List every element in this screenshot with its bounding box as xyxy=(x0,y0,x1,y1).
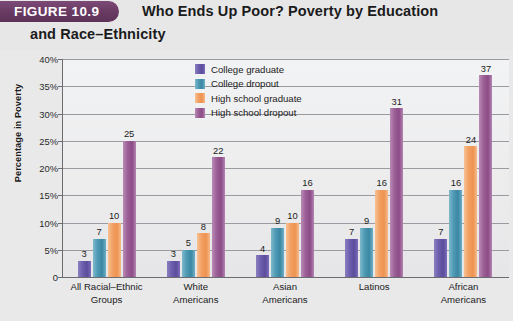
bar[interactable] xyxy=(167,261,180,277)
legend-swatch-icon xyxy=(195,79,205,89)
figure-title: Who Ends Up Poor? Poverty by Education a… xyxy=(30,0,500,46)
bar[interactable] xyxy=(271,228,284,277)
chart-area: Percentage in Poverty 40%35%30%25%20%15%… xyxy=(0,50,513,321)
bar[interactable] xyxy=(479,75,492,277)
bar-value-label: 37 xyxy=(481,63,491,74)
legend-label: College graduate xyxy=(211,64,284,75)
bar[interactable] xyxy=(345,239,358,277)
bar-value-label: 10 xyxy=(109,210,119,221)
figure-header: FIGURE 10.9 Who Ends Up Poor? Poverty by… xyxy=(0,0,513,50)
y-axis-tick-label: 10% xyxy=(18,217,58,228)
x-axis-tick-label-line: White xyxy=(151,281,240,294)
bar-value-label: 22 xyxy=(213,145,223,156)
bar[interactable] xyxy=(212,157,225,277)
x-axis-tick-label: AsianAmericans xyxy=(240,281,329,306)
bar-value-label: 4 xyxy=(260,243,265,254)
bar-group: 371025 xyxy=(62,59,151,277)
bar-value-label: 10 xyxy=(287,210,297,221)
bar[interactable] xyxy=(301,190,314,277)
bar[interactable] xyxy=(390,108,403,277)
legend-swatch-icon xyxy=(195,64,205,74)
x-axis-tick-label-line: Latinos xyxy=(330,281,419,294)
bar-value-label: 24 xyxy=(466,134,476,145)
x-axis-tick-label-line: All Racial–Ethnic xyxy=(62,281,151,294)
y-axis-tick xyxy=(58,277,63,278)
bar[interactable] xyxy=(464,146,477,277)
x-axis-tick-label-line: Groups xyxy=(62,294,151,307)
bar[interactable] xyxy=(375,190,388,277)
bar-value-label: 5 xyxy=(186,237,191,248)
bar-value-label: 8 xyxy=(201,221,206,232)
x-axis-tick-label-line: Americans xyxy=(151,294,240,307)
bar-value-label: 3 xyxy=(81,248,86,259)
x-axis-tick-label-line: Americans xyxy=(240,294,329,307)
bar[interactable] xyxy=(123,141,136,277)
y-axis-tick-label: 15% xyxy=(18,190,58,201)
bar[interactable] xyxy=(286,223,299,278)
y-axis-tick-label: 20% xyxy=(18,163,58,174)
bar-value-label: 16 xyxy=(376,177,386,188)
figure-title-line-2: and Race–Ethnicity xyxy=(30,23,500,46)
y-axis-tick-label: 40% xyxy=(18,54,58,65)
legend-item[interactable]: College dropout xyxy=(195,77,302,92)
x-axis-tick-label: AfricanAmericans xyxy=(419,281,508,306)
x-axis-tick-label-line: African xyxy=(419,281,508,294)
y-axis-tick-label: 5% xyxy=(18,244,58,255)
bar-value-label: 9 xyxy=(275,215,280,226)
bar-value-label: 7 xyxy=(438,226,443,237)
x-axis-tick-label: WhiteAmericans xyxy=(151,281,240,306)
bar-value-label: 31 xyxy=(391,96,401,107)
bar-value-label: 7 xyxy=(349,226,354,237)
legend-label: College dropout xyxy=(211,78,279,89)
x-axis-tick-label: Latinos xyxy=(330,281,419,294)
legend-label: High school graduate xyxy=(211,93,302,104)
legend-label: High school dropout xyxy=(211,107,296,118)
legend-swatch-icon xyxy=(195,108,205,118)
bar[interactable] xyxy=(449,190,462,277)
bar-value-label: 16 xyxy=(302,177,312,188)
x-axis-tick-labels: All Racial–EthnicGroupsWhiteAmericansAsi… xyxy=(62,281,508,319)
bar[interactable] xyxy=(108,223,121,278)
bar-group: 7162437 xyxy=(419,59,508,277)
bar[interactable] xyxy=(256,255,269,277)
bar[interactable] xyxy=(182,250,195,277)
x-axis-tick-label-line: Asian xyxy=(240,281,329,294)
figure-title-line-1: Who Ends Up Poor? Poverty by Education xyxy=(30,0,500,23)
legend-item[interactable]: High school graduate xyxy=(195,91,302,106)
y-axis-tick-label: 30% xyxy=(18,108,58,119)
y-axis-tick-labels: 40%35%30%25%20%15%10%5%0 xyxy=(14,59,58,277)
legend-swatch-icon xyxy=(195,93,205,103)
x-axis-tick-label-line: Americans xyxy=(419,294,508,307)
bar[interactable] xyxy=(93,239,106,277)
bar-value-label: 16 xyxy=(451,177,461,188)
bar-value-label: 25 xyxy=(124,128,134,139)
y-axis-tick-label: 35% xyxy=(18,81,58,92)
legend-item[interactable]: College graduate xyxy=(195,62,302,77)
x-axis-tick-label: All Racial–EthnicGroups xyxy=(62,281,151,306)
legend-item[interactable]: High school dropout xyxy=(195,106,302,121)
bar-value-label: 3 xyxy=(171,248,176,259)
bar[interactable] xyxy=(78,261,91,277)
y-axis-tick-label: 25% xyxy=(18,135,58,146)
y-axis-tick-label: 0 xyxy=(18,272,58,283)
bar-value-label: 7 xyxy=(96,226,101,237)
bar[interactable] xyxy=(197,233,210,277)
bar[interactable] xyxy=(360,228,373,277)
bar-group: 791631 xyxy=(330,59,419,277)
bar-value-label: 9 xyxy=(364,215,369,226)
bar[interactable] xyxy=(434,239,447,277)
chart-legend: College graduateCollege dropoutHigh scho… xyxy=(195,62,302,120)
